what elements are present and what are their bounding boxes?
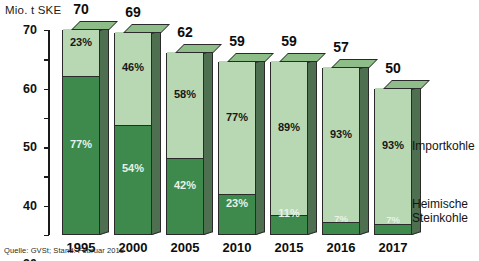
legend-item-heimische-steinkohle: Heimische Steinkohle	[412, 197, 468, 225]
bar-front-face	[218, 62, 256, 235]
x-axis-label-2016: 2016	[317, 240, 365, 255]
y-tick-label: 30	[23, 257, 37, 261]
bar-side-face	[100, 27, 109, 235]
segment-importkohle	[271, 61, 307, 215]
bar-2016[interactable]: 93%7%572016	[322, 68, 360, 235]
y-tick: 50	[44, 89, 49, 90]
y-tick: 20	[44, 176, 49, 177]
x-axis-label-2005: 2005	[161, 240, 209, 255]
bar-top-face	[227, 53, 274, 62]
y-tick: 0	[44, 235, 49, 236]
y-tick: 60	[44, 59, 49, 60]
bar-2005[interactable]: 58%42%622005	[166, 53, 204, 235]
total-label: 59	[213, 33, 261, 49]
bar-side-face	[256, 59, 265, 235]
bar-top-face	[71, 21, 118, 30]
stacked-bar-chart: Mio. t SKE 010203040506070 23%77%7019954…	[0, 0, 479, 261]
segment-heimische-steinkohle	[375, 224, 411, 234]
plot-area: 010203040506070 23%77%70199546%54%692000…	[48, 30, 400, 235]
bar-side-face	[204, 51, 213, 235]
x-axis-label-2015: 2015	[265, 240, 313, 255]
bar-front-face	[322, 68, 360, 235]
bar-side-face	[360, 65, 369, 235]
segment-importkohle	[219, 61, 255, 194]
total-label: 69	[109, 4, 157, 20]
bar-side-face	[152, 30, 161, 235]
bar-front-face	[62, 30, 100, 235]
segment-heimische-steinkohle	[219, 194, 255, 234]
bar-2017[interactable]: 93%7%502017	[374, 89, 412, 235]
total-label: 59	[265, 33, 313, 49]
x-axis-label-2017: 2017	[369, 240, 417, 255]
y-tick-label: 60	[23, 82, 37, 96]
y-tick: 10	[44, 206, 49, 207]
bar-front-face	[166, 53, 204, 235]
y-axis-line	[48, 30, 50, 235]
segment-heimische-steinkohle	[63, 76, 99, 234]
total-label: 50	[369, 60, 417, 76]
legend-item-importkohle: Importkohle	[412, 139, 475, 153]
bar-front-face	[114, 33, 152, 235]
segment-importkohle	[167, 52, 203, 157]
y-tick: 30	[44, 147, 49, 148]
bar-2000[interactable]: 46%54%692000	[114, 33, 152, 235]
y-axis-title: Mio. t SKE	[5, 4, 61, 16]
segment-heimische-steinkohle	[271, 215, 307, 234]
bar-side-face	[308, 59, 317, 235]
bar-2015[interactable]: 89%11%592015	[270, 62, 308, 235]
segment-importkohle	[115, 32, 151, 125]
total-label: 62	[161, 24, 209, 40]
segment-heimische-steinkohle	[167, 158, 203, 234]
bar-2010[interactable]: 77%23%592010	[218, 62, 256, 235]
total-label: 57	[317, 39, 365, 55]
bar-front-face	[270, 62, 308, 235]
y-tick: 70	[44, 30, 49, 31]
y-tick-label: 40	[23, 199, 37, 213]
y-tick-label: 50	[23, 140, 37, 154]
bar-1995[interactable]: 23%77%701995	[62, 30, 100, 235]
segment-importkohle	[375, 88, 411, 224]
total-label: 70	[57, 1, 105, 17]
segment-heimische-steinkohle	[115, 125, 151, 234]
bar-front-face	[374, 89, 412, 235]
segment-importkohle	[63, 29, 99, 76]
segment-importkohle	[323, 67, 359, 222]
y-tick: 40	[44, 118, 49, 119]
y-tick-label: 70	[23, 23, 37, 37]
x-axis-label-2010: 2010	[213, 240, 261, 255]
source-note: Quelle: GVSt; Stand: Februar 2018	[4, 246, 124, 255]
bar-top-face	[383, 80, 430, 89]
segment-heimische-steinkohle	[323, 222, 359, 234]
